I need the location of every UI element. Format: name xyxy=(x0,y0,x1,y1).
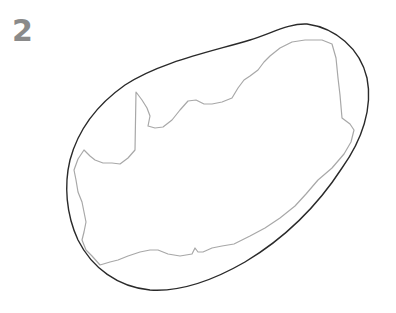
sketch-drawing xyxy=(0,0,396,313)
outer-outline xyxy=(67,24,369,290)
inner-outline xyxy=(74,40,354,265)
